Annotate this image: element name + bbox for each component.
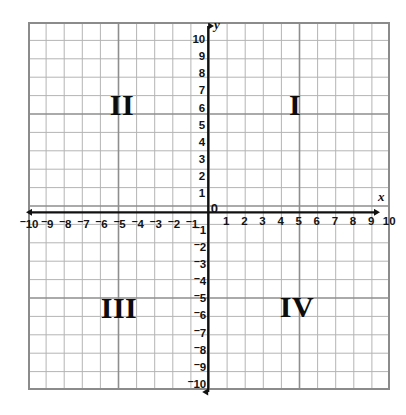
- x-tick-label-7: 7: [332, 216, 338, 228]
- y-axis-label: y: [214, 18, 220, 31]
- y-tick-label-neg-7: –7: [194, 324, 206, 339]
- y-tick-label-neg-4: –4: [194, 273, 206, 288]
- coordinate-plane-figure: –10–9–8–7–6–5–4–3–2–11234567891001234567…: [0, 0, 406, 415]
- y-tick-label-1: 1: [199, 189, 205, 201]
- grid-area: [28, 22, 390, 390]
- x-tick-label-neg-3: –3: [150, 216, 162, 231]
- x-tick-label-2: 2: [241, 216, 247, 228]
- quadrant-one: I: [289, 90, 301, 120]
- quadrant-three: III: [101, 293, 138, 323]
- x-tick-label-1: 1: [223, 216, 229, 228]
- y-tick-label-neg-8: –8: [194, 341, 206, 356]
- x-tick-label-neg-7: –7: [77, 216, 89, 231]
- y-tick-label-4: 4: [199, 137, 205, 149]
- x-axis-label: x: [378, 190, 385, 203]
- x-tick-label-4: 4: [277, 216, 283, 228]
- y-tick-label-neg-10: –10: [188, 376, 206, 391]
- y-tick-label-2: 2: [199, 171, 205, 183]
- x-tick-label-neg-4: –4: [132, 216, 144, 231]
- origin-label: 0: [211, 202, 218, 215]
- y-tick-label-9: 9: [199, 51, 205, 63]
- y-tick-label-neg-1: –1: [194, 221, 206, 236]
- y-tick-label-neg-2: –2: [194, 238, 206, 253]
- y-tick-label-neg-5: –5: [194, 290, 206, 305]
- x-tick-label-5: 5: [295, 216, 301, 228]
- y-tick-label-neg-6: –6: [194, 307, 206, 322]
- x-tick-label-neg-5: –5: [114, 216, 126, 231]
- x-tick-label-8: 8: [350, 216, 356, 228]
- x-tick-label-neg-8: –8: [59, 216, 71, 231]
- x-tick-label-6: 6: [314, 216, 320, 228]
- x-tick-label-neg-9: –9: [41, 216, 53, 231]
- quadrant-two: II: [110, 90, 134, 120]
- y-tick-label-5: 5: [199, 120, 205, 132]
- x-tick-label-neg-2: –2: [168, 216, 180, 231]
- y-tick-label-6: 6: [199, 103, 205, 115]
- y-tick-label-7: 7: [199, 86, 205, 98]
- x-tick-label-9: 9: [368, 216, 374, 228]
- y-tick-label-neg-9: –9: [194, 359, 206, 374]
- grid-lines: [28, 22, 390, 390]
- x-tick-label-3: 3: [259, 216, 265, 228]
- y-tick-label-neg-3: –3: [194, 256, 206, 271]
- x-tick-label-neg-6: –6: [96, 216, 108, 231]
- y-tick-label-10: 10: [192, 34, 205, 46]
- x-tick-label-10: 10: [383, 216, 396, 228]
- quadrant-four: IV: [280, 292, 314, 322]
- y-tick-label-3: 3: [199, 154, 205, 166]
- x-tick-label-neg-10: –10: [20, 216, 38, 231]
- y-tick-label-8: 8: [199, 69, 205, 81]
